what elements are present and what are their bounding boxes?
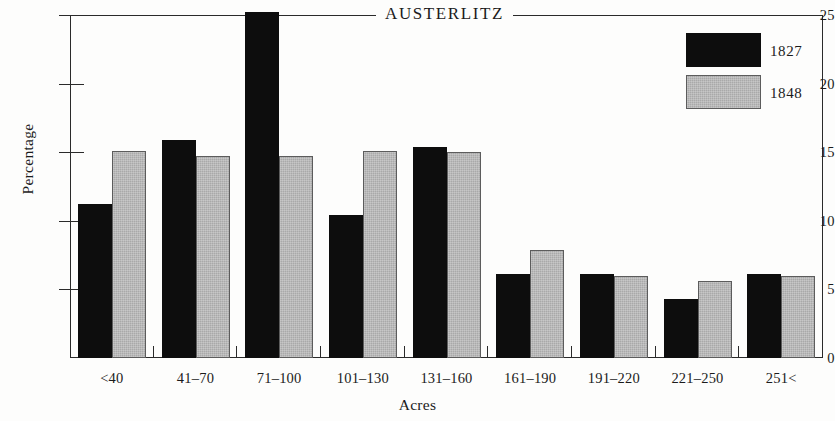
x-axis-label: Acres: [0, 396, 835, 414]
x-axis-tick: [655, 346, 656, 358]
chart-title: AUSTERLITZ: [376, 4, 513, 24]
y-axis-tick-label: 15: [783, 144, 835, 161]
legend-swatch-1848: [686, 75, 761, 109]
x-axis-tick: [320, 346, 321, 358]
legend-label-1848: 1848: [770, 85, 802, 102]
y-axis-tick-label: 0: [783, 350, 835, 367]
y-axis-tick-inner: [70, 84, 84, 85]
x-axis-tick: [571, 346, 572, 358]
x-axis-tick-label: 251<: [739, 370, 823, 387]
legend-label-1827: 1827: [770, 43, 802, 60]
x-axis-tick-label: 71–100: [237, 370, 321, 387]
x-axis-tick-label: 161–190: [488, 370, 572, 387]
x-axis-tick: [404, 346, 405, 358]
y-axis-tick: [59, 15, 81, 16]
x-axis-tick: [487, 346, 488, 358]
x-axis-tick-label: 221–250: [656, 370, 740, 387]
x-axis-tick: [153, 346, 154, 358]
y-axis-tick-label: 10: [783, 212, 835, 229]
x-axis-tick: [738, 346, 739, 358]
x-axis-tick-label: 131–160: [405, 370, 489, 387]
x-axis-tick-label: 191–220: [572, 370, 656, 387]
x-axis-tick-label: <40: [70, 370, 154, 387]
y-axis-tick-label: 5: [783, 281, 835, 298]
y-axis-label: Percentage: [19, 69, 37, 249]
legend-swatch-1827: [686, 33, 761, 67]
y-axis-tick-inner: [70, 221, 84, 222]
y-axis-tick-inner: [70, 152, 84, 153]
y-axis-tick-inner: [70, 289, 84, 290]
x-axis-tick: [236, 346, 237, 358]
bar-chart: Percentage 0510152025 <4041–7071–100101–…: [0, 0, 835, 421]
x-axis-tick-label: 101–130: [321, 370, 405, 387]
x-axis-tick-label: 41–70: [154, 370, 238, 387]
y-axis-tick-label: 25: [783, 7, 835, 24]
